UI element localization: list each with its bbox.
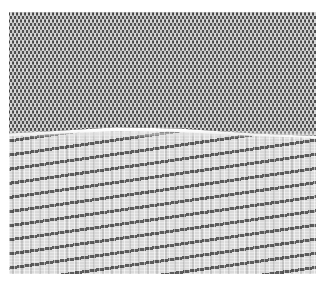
fabric-photo (9, 12, 316, 274)
dark-knit-section (9, 12, 316, 136)
section-boundary (9, 130, 316, 138)
light-weave-section (9, 126, 316, 274)
